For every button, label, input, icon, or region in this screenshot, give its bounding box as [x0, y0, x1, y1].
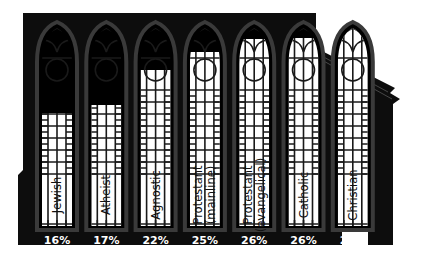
category-label: Atheist [99, 174, 113, 215]
value-label: 16% [44, 234, 70, 247]
window-bar: Christian [333, 22, 373, 230]
category-label: Protestant(evangelical) [241, 158, 268, 233]
value-label: 26% [290, 234, 316, 247]
value-label: 28% [340, 234, 366, 247]
category-label: Christian [346, 169, 360, 220]
category-label: Agnostic [149, 170, 163, 220]
category-label: Jewish [50, 177, 64, 214]
window-bar: Jewish [37, 22, 77, 230]
window-bar: Protestant(evangelical) [234, 22, 274, 232]
category-label: Protestant(mainline) [191, 165, 218, 225]
value-label: 25% [192, 234, 218, 247]
window-bars: JewishAtheistAgnosticProtestant(mainline… [37, 22, 373, 232]
category-label: Catholic [297, 172, 311, 219]
value-label: 22% [142, 234, 168, 247]
window-bar: Agnostic [136, 22, 176, 230]
value-label: 26% [241, 234, 267, 247]
window-bar: Protestant(mainline) [185, 22, 225, 230]
window-bar: Atheist [86, 22, 126, 230]
value-label: 17% [93, 234, 119, 247]
window-bar: Catholic [284, 22, 324, 230]
church-window-chart: JewishAtheistAgnosticProtestant(mainline… [0, 0, 445, 276]
